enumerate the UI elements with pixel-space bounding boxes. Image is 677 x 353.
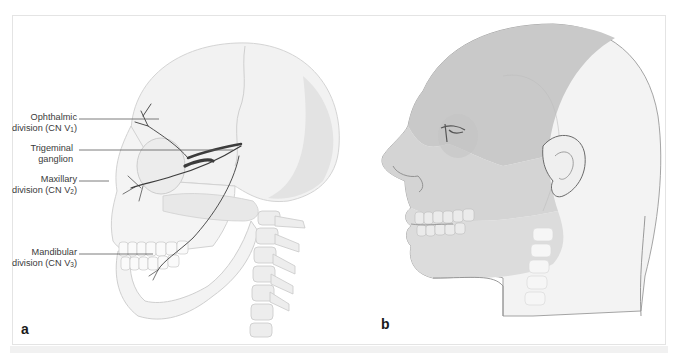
bottom-strip	[10, 346, 668, 353]
head-dermatome-illustration	[353, 16, 667, 346]
panel-letter-b: b	[381, 316, 390, 332]
figure-frame: Ophthalmic division (CN V1) Trigeminal g…	[12, 15, 666, 345]
cervical-spine	[250, 211, 305, 337]
panel-letter-a: a	[21, 321, 29, 337]
panel-b: b	[353, 16, 667, 344]
orbit-outline	[438, 114, 478, 158]
panel-a: Ophthalmic division (CN V1) Trigeminal g…	[13, 16, 353, 344]
orbit	[137, 138, 185, 194]
label-ophthalmic-division: Ophthalmic division (CN V1)	[0, 112, 77, 135]
label-trigeminal-ganglion: Trigeminal ganglion	[0, 143, 73, 165]
label-mandibular-division: Mandibular division (CN V3)	[0, 247, 77, 270]
label-maxillary-division: Maxillary division (CN V2)	[0, 174, 77, 197]
